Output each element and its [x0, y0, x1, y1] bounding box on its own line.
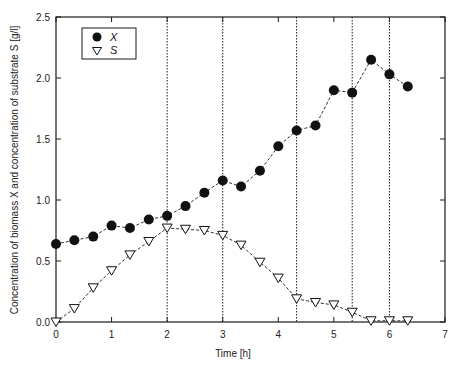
data-point-triangle: [292, 295, 302, 304]
data-point-circle: [125, 223, 135, 233]
data-point-circle: [292, 125, 302, 135]
data-point-triangle: [255, 258, 265, 267]
series-x-biomass: [51, 55, 413, 249]
data-point-triangle: [218, 231, 228, 240]
data-point-circle: [366, 55, 376, 65]
data-point-circle: [162, 211, 172, 221]
data-point-circle: [144, 215, 154, 225]
data-point-circle: [403, 82, 413, 92]
data-point-triangle: [69, 305, 79, 314]
data-point-circle: [88, 232, 98, 242]
y-tick-label: 2.0: [36, 73, 50, 84]
y-tick-label: 1.0: [36, 195, 50, 206]
data-point-circle: [180, 201, 190, 211]
y-tick-label: 1.5: [36, 134, 50, 145]
y-tick-label: 2.5: [36, 12, 50, 23]
legend-box: [82, 28, 136, 59]
data-point-circle: [273, 141, 283, 151]
data-point-circle: [311, 121, 321, 131]
data-point-triangle: [347, 308, 357, 317]
series-line: [56, 60, 408, 244]
data-point-triangle: [199, 227, 209, 236]
y-tick-label: 0.5: [36, 256, 50, 267]
data-point-triangle: [273, 274, 283, 283]
data-point-circle: [107, 221, 117, 231]
data-point-circle: [329, 85, 339, 95]
data-point-triangle: [162, 224, 172, 233]
data-point-triangle: [311, 298, 321, 307]
legend: X S: [82, 28, 136, 59]
data-point-circle: [255, 166, 265, 176]
axis-ticks: 012345670.00.51.01.52.02.5: [36, 12, 448, 341]
series-s-substrate: [51, 224, 413, 326]
chart: 012345670.00.51.01.52.02.5 X S Time [h] …: [0, 0, 456, 371]
x-tick-label: 4: [276, 329, 282, 340]
y-tick-label: 0.0: [36, 317, 50, 328]
x-tick-label: 7: [442, 329, 448, 340]
x-tick-label: 6: [387, 329, 393, 340]
y-axis-title: Concentration of biomass X and concentra…: [9, 26, 20, 315]
data-point-circle: [236, 182, 246, 192]
x-tick-label: 3: [220, 329, 226, 340]
data-point-circle: [51, 239, 61, 249]
x-tick-label: 2: [164, 329, 170, 340]
legend-label-s: S: [110, 44, 118, 56]
filled-circle-icon: [93, 33, 102, 42]
x-tick-label: 1: [109, 329, 115, 340]
data-point-circle: [199, 188, 209, 198]
legend-label-x: X: [109, 31, 118, 43]
data-point-circle: [69, 235, 79, 245]
x-tick-label: 0: [53, 329, 59, 340]
x-tick-label: 5: [331, 329, 337, 340]
data-point-circle: [218, 175, 228, 185]
plot-frame: [56, 17, 445, 322]
data-point-triangle: [144, 237, 154, 246]
data-point-circle: [384, 69, 394, 79]
x-axis-title: Time [h]: [215, 348, 251, 359]
data-point-circle: [347, 88, 357, 98]
plot-area: [56, 17, 445, 322]
data-point-triangle: [329, 301, 339, 310]
